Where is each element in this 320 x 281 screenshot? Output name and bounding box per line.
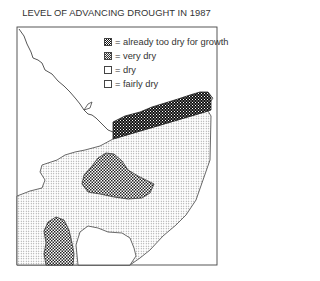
legend-item-very-dry: = very dry [104, 49, 228, 63]
legend-label: = dry [115, 65, 136, 75]
legend-item-fairly-dry: = fairly dry [104, 77, 228, 91]
legend-label: = already too dry for growth [115, 37, 228, 47]
legend-label: = very dry [115, 51, 156, 61]
legend-label: = fairly dry [115, 79, 158, 89]
legend: = already too dry for growth = very dry … [104, 35, 228, 91]
very-dry-swatch-icon [104, 52, 112, 60]
fairly-dry-swatch-icon [104, 80, 112, 88]
legend-item-already-too-dry: = already too dry for growth [104, 35, 228, 49]
already-too-dry-swatch-icon [104, 38, 112, 46]
dry-swatch-icon [104, 66, 112, 74]
legend-item-dry: = dry [104, 63, 228, 77]
